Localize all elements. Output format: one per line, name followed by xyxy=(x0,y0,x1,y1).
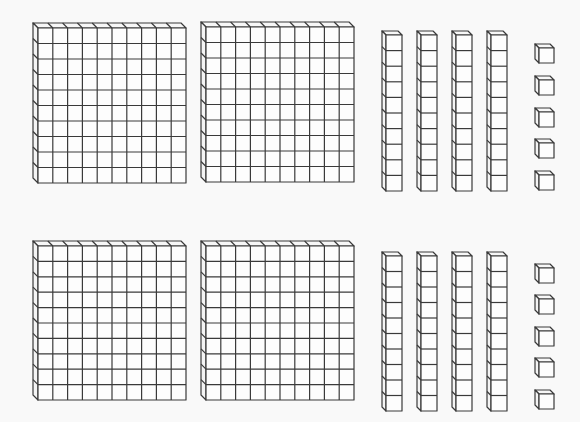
hundred-flat xyxy=(201,241,354,400)
unit-cube-front-face xyxy=(539,143,554,158)
hundred-flat xyxy=(33,241,186,400)
ten-rod xyxy=(417,31,437,191)
ten-rod xyxy=(487,252,507,411)
ten-rod xyxy=(452,31,472,191)
unit-cube xyxy=(535,171,554,190)
unit-cube xyxy=(535,327,554,346)
unit-cube xyxy=(535,76,554,95)
unit-cube xyxy=(535,295,554,314)
unit-cube-front-face xyxy=(539,299,554,314)
base-ten-blocks-diagram xyxy=(0,0,580,422)
unit-cube-front-face xyxy=(539,48,554,63)
hundred-flat xyxy=(33,23,186,183)
ten-rod xyxy=(382,31,402,191)
unit-cube xyxy=(535,139,554,158)
ten-rod xyxy=(487,31,507,191)
ten-rod xyxy=(452,252,472,411)
unit-cube xyxy=(535,44,554,63)
unit-cube-front-face xyxy=(539,394,554,409)
unit-cube xyxy=(535,108,554,127)
ten-rod xyxy=(417,252,437,411)
unit-cube xyxy=(535,264,554,283)
unit-cube-front-face xyxy=(539,331,554,346)
unit-cube-front-face xyxy=(539,112,554,127)
unit-cube-front-face xyxy=(539,362,554,377)
unit-cube-front-face xyxy=(539,268,554,283)
unit-cube xyxy=(535,390,554,409)
unit-cube-front-face xyxy=(539,175,554,190)
unit-cube-front-face xyxy=(539,80,554,95)
unit-cube xyxy=(535,358,554,377)
ten-rod xyxy=(382,252,402,411)
hundred-flat xyxy=(201,22,354,182)
